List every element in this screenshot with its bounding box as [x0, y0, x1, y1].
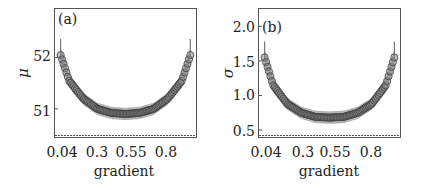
panel-b: (b) σ 0.5 1.0 1.5 2.0 0.04 0.3 0.55 0.8 …	[211, 0, 422, 190]
y-tick-a-52: 52	[11, 49, 51, 63]
x-tick-a-2: 0.55	[115, 145, 146, 159]
panel-label-b: (b)	[262, 19, 282, 35]
data-point-marker	[187, 51, 194, 58]
std-band	[265, 49, 395, 124]
y-tick-b-0.5: 0.5	[215, 124, 255, 138]
panel-a: (a) μ 51 52 0.04 0.3 0.55 0.8 gradient	[0, 0, 211, 190]
x-axis-label-a: gradient	[94, 163, 154, 179]
y-tick-a-51: 51	[11, 104, 51, 118]
x-axis-label-b: gradient	[299, 163, 359, 179]
x-tick-a-0: 0.04	[46, 145, 77, 159]
x-tick-a-3: 0.8	[155, 145, 177, 159]
x-tick-b-1: 0.3	[292, 145, 314, 159]
y-tick-b-1.0: 1.0	[215, 88, 255, 102]
x-tick-a-1: 0.3	[86, 145, 108, 159]
y-tick-b-1.5: 1.5	[215, 55, 255, 69]
y-tick-b-2.0: 2.0	[215, 20, 255, 34]
x-tick-b-3: 0.8	[360, 145, 382, 159]
x-tick-b-2: 0.55	[319, 145, 350, 159]
data-point-marker	[391, 54, 398, 61]
panel-label-a: (a)	[58, 11, 77, 27]
y-axis-label-a: μ	[14, 68, 32, 78]
std-band	[61, 47, 191, 120]
x-tick-b-0: 0.04	[250, 145, 281, 159]
plot-area-a	[0, 0, 211, 190]
